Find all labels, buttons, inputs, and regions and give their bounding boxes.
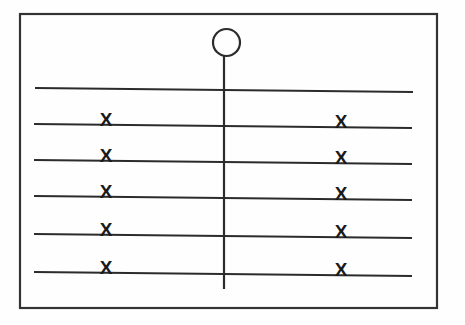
x-mark-left[interactable]: X xyxy=(100,145,113,166)
x-mark-left[interactable]: X xyxy=(100,219,113,240)
x-mark-right[interactable]: X xyxy=(335,183,348,204)
x-mark-right[interactable]: X xyxy=(335,111,348,132)
x-mark-right[interactable]: X xyxy=(335,259,348,280)
x-mark-right[interactable]: X xyxy=(335,221,348,242)
x-mark-right[interactable]: X xyxy=(335,147,348,168)
x-mark-left[interactable]: X xyxy=(100,257,113,278)
circle-head[interactable] xyxy=(213,29,240,56)
diagram-svg: XXXXXXXXXX xyxy=(0,0,465,325)
diagram-canvas: XXXXXXXXXX xyxy=(0,0,465,325)
x-mark-left[interactable]: X xyxy=(100,181,113,202)
x-mark-left[interactable]: X xyxy=(100,109,113,130)
